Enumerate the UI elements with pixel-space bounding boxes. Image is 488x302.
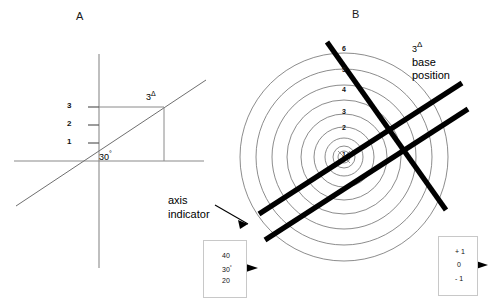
axis-indicator-line1: axis: [168, 194, 188, 206]
ring-label-3: 3: [342, 108, 346, 115]
base-position-label: 3Δ base position: [412, 38, 450, 82]
base-position-line1: base: [412, 56, 436, 68]
panel-a-angle-label: 30°: [99, 150, 112, 162]
panel-a-prism-label: 3Δ: [146, 90, 156, 102]
panel-a-30-degree-line: [16, 80, 206, 206]
degree-symbol-icon: °: [109, 150, 112, 157]
scale-right-label-plus1: + 1: [455, 248, 465, 255]
base-position-superscript: Δ: [417, 40, 422, 49]
scale-left-degree-icon: °: [230, 264, 232, 270]
ring-label-2: 2: [342, 124, 346, 131]
panel-a-prism-superscript: Δ: [151, 90, 156, 97]
scale-left-label-20: 20: [222, 277, 230, 284]
scale-left-label-30: 30°: [222, 264, 232, 273]
figure-canvas: A B: [0, 0, 488, 302]
ring-label-1: 1: [342, 151, 346, 158]
panel-a-angle-value: 30: [99, 152, 109, 162]
base-position-leader: [398, 74, 411, 82]
panel-a-ytick-1: 1: [67, 137, 71, 146]
base-position-line2: position: [412, 69, 450, 81]
ring-label-4: 4: [342, 86, 346, 93]
scale-right-label-zero: 0: [457, 261, 461, 268]
scale-left-label-30-value: 30: [222, 266, 230, 273]
axis-bar-lower: [265, 109, 468, 240]
axis-indicator-label: axis indicator: [168, 193, 210, 221]
scale-right-label-minus1: - 1: [455, 275, 463, 282]
panel-a-ytick-3: 3: [67, 101, 71, 110]
scale-left-label-40: 40: [222, 252, 230, 259]
axis-indicator-leader: [215, 205, 248, 229]
ring-label-6: 6: [342, 45, 346, 52]
panel-a-tick-marks: [88, 107, 99, 143]
panel-a-ytick-2: 2: [67, 119, 71, 128]
ring-label-5: 5: [342, 66, 346, 73]
axis-indicator-line2: indicator: [168, 208, 210, 220]
